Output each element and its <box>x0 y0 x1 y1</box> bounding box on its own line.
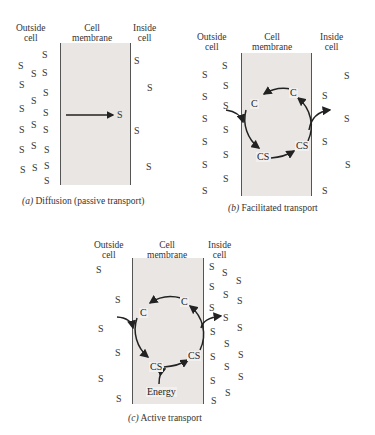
carrier-c: C <box>180 297 189 307</box>
caption-c: (c) Active transport <box>128 413 202 423</box>
carrier-c: C <box>139 308 148 318</box>
active-transport-arrows-icon <box>0 0 375 435</box>
carrier-complex-cs: CS <box>187 351 201 361</box>
energy-label: Energy <box>146 387 177 397</box>
carrier-complex-cs: CS <box>149 362 163 372</box>
